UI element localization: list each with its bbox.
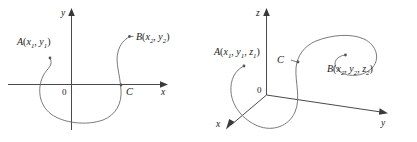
point-a-close-paren: ) (256, 46, 259, 58)
plane-curve-path (40, 37, 129, 123)
y-axis: y (60, 8, 75, 130)
curve-c-leader (291, 60, 297, 62)
point-b-close-paren: ) (166, 31, 169, 43)
curve-c-leader-line (291, 60, 297, 62)
origin-label: 0 (257, 85, 262, 95)
y-axis: y (267, 95, 389, 128)
y-axis-label: y (60, 8, 66, 18)
point-a-close-paren: ) (47, 36, 50, 48)
space-curve-svg: z y x 0 (209, 0, 417, 142)
plane-curve-svg: x y 0 A(x1, y1) (0, 0, 209, 142)
y-axis-label: y (380, 118, 386, 128)
x-axis-label: x (215, 119, 221, 129)
curve-label-c: C (277, 54, 285, 65)
origin-label: 0 (62, 87, 67, 97)
space-curve-panel: z y x 0 (209, 0, 417, 142)
curve-label-c: C (126, 86, 134, 97)
z-axis-arrowhead (263, 8, 270, 16)
point-b-dot (344, 54, 347, 57)
point-a-label: A(x1, y1, z1) (213, 46, 260, 59)
point-a-dot (243, 65, 246, 68)
y-axis-arrowhead (68, 8, 75, 16)
y-axis-arrowhead (379, 108, 388, 115)
point-b-close-paren: ) (369, 63, 372, 75)
point-a-dot (49, 57, 52, 60)
point-b-label: B(x2, y2) (136, 31, 170, 44)
point-c-dot (297, 61, 300, 64)
x-axis: x (8, 81, 168, 97)
figure-root: x y 0 A(x1, y1) (0, 0, 417, 142)
point-b-label: B(x2, y2, z2) (327, 63, 373, 76)
point-a-label: A(x1, y1) (16, 36, 51, 49)
z-axis-label: z (255, 8, 260, 18)
plane-curve-panel: x y 0 A(x1, y1) (0, 0, 209, 142)
y-axis-line (267, 95, 382, 112)
point-c-dot (120, 84, 123, 87)
x-axis-label: x (160, 87, 166, 97)
x-axis-arrowhead (226, 119, 235, 129)
x-axis: x (215, 95, 267, 130)
